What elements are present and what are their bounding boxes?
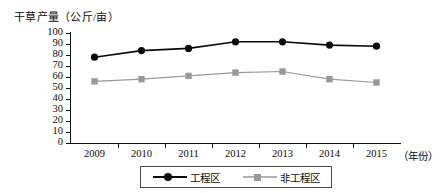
legend-label: 非工程区 [280,170,320,185]
data-point-marker-square [373,79,379,85]
data-point-marker-circle [232,38,239,45]
data-point-marker-square [232,69,238,75]
data-point-marker-circle [373,43,380,50]
legend-item-engineering-area: 工程区 [153,170,220,185]
series-non-engineering-area [91,68,379,85]
data-point-marker-circle [185,45,192,52]
data-point-marker-square [91,78,97,84]
series-engineering-area [91,38,380,61]
data-point-marker-square [279,68,285,74]
legend-item-non-engineering-area: 非工程区 [243,170,320,185]
chart-legend: 工程区 非工程区 [140,166,332,188]
data-point-marker-circle [91,54,98,61]
legend-marker-square-icon [243,172,277,182]
data-point-marker-circle [279,38,286,45]
data-point-marker-square [138,76,144,82]
legend-label: 工程区 [190,170,220,185]
series-plot-area [0,0,442,193]
chart-figure: 干草产量（公斤/亩） 0102030405060708090100 200920… [0,0,442,193]
data-point-marker-square [185,73,191,79]
data-point-marker-circle [326,42,333,49]
data-point-marker-circle [138,47,145,54]
legend-marker-circle-icon [153,172,187,182]
data-point-marker-square [326,76,332,82]
